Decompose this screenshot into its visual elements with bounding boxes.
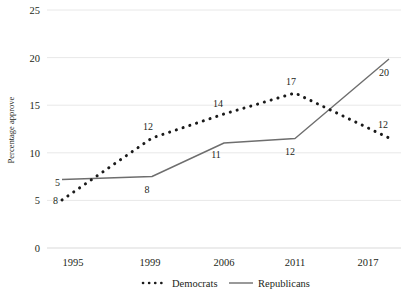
data-label-rep-2017: 20 bbox=[379, 67, 389, 78]
gridlines bbox=[47, 10, 401, 248]
series-line-republicans bbox=[62, 59, 389, 180]
data-labels-republicans: 5 8 11 12 20 bbox=[55, 67, 389, 195]
series-line-democrats bbox=[62, 93, 389, 200]
data-label-dem-2006: 14 bbox=[213, 98, 223, 109]
data-label-rep-1995: 5 bbox=[55, 177, 60, 188]
data-labels-democrats: 8 12 14 17 12 bbox=[53, 76, 388, 206]
data-label-rep-1999: 8 bbox=[145, 184, 150, 195]
x-tick-1999: 1999 bbox=[140, 257, 161, 268]
y-axis-title: Percentage approve bbox=[6, 96, 16, 163]
line-chart: 25 20 15 10 5 0 Percentage approve 1995 … bbox=[0, 0, 404, 297]
x-tick-2006: 2006 bbox=[214, 257, 235, 268]
y-tick-10: 10 bbox=[30, 148, 41, 159]
x-tick-2011: 2011 bbox=[285, 257, 306, 268]
data-label-dem-1995: 8 bbox=[53, 195, 58, 206]
y-axis-tick-labels: 25 20 15 10 5 0 bbox=[30, 5, 41, 254]
x-axis-tick-labels: 1995 1999 2006 2011 2017 bbox=[63, 257, 379, 268]
y-tick-15: 15 bbox=[30, 100, 41, 111]
data-label-dem-2011: 17 bbox=[286, 76, 296, 87]
y-tick-0: 0 bbox=[35, 243, 40, 254]
x-tick-1995: 1995 bbox=[63, 257, 84, 268]
x-tick-2017: 2017 bbox=[358, 257, 379, 268]
chart-legend: Democrats Republicans bbox=[143, 278, 310, 289]
chart-canvas: 25 20 15 10 5 0 Percentage approve 1995 … bbox=[0, 0, 404, 297]
data-label-rep-2006: 11 bbox=[211, 149, 221, 160]
data-label-rep-2011: 12 bbox=[285, 146, 295, 157]
y-tick-20: 20 bbox=[30, 53, 41, 64]
legend-label-democrats: Democrats bbox=[172, 278, 217, 289]
y-tick-25: 25 bbox=[30, 5, 41, 16]
data-label-dem-1999: 12 bbox=[143, 121, 153, 132]
legend-label-republicans: Republicans bbox=[258, 278, 310, 289]
y-tick-5: 5 bbox=[35, 195, 40, 206]
data-label-dem-2017: 12 bbox=[378, 119, 388, 130]
